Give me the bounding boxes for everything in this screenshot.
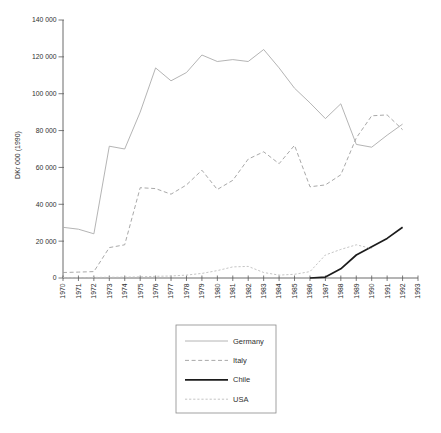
y-tick-label: 20 000 [36, 238, 57, 245]
x-tick-label: 1979 [198, 283, 205, 298]
x-tick-label: 1987 [322, 283, 329, 298]
x-tick-label: 1988 [337, 283, 344, 298]
x-tick-label: 1970 [59, 283, 66, 298]
x-tick-label: 1974 [121, 283, 128, 298]
x-tick-label: 1981 [229, 283, 236, 298]
series-line-italy [63, 115, 403, 273]
y-tick-label: 120 000 [32, 53, 57, 60]
axes-group: 020 00040 00060 00080 000100 000120 0001… [32, 16, 421, 298]
x-tick-label: 1989 [353, 283, 360, 298]
x-tick-label: 1991 [384, 283, 391, 298]
series-group [63, 50, 403, 279]
series-line-usa [63, 245, 372, 278]
legend-group: GermanyItalyChileUSA [176, 325, 276, 413]
x-tick-label: 1983 [260, 283, 267, 298]
series-line-germany [63, 50, 403, 234]
x-tick-label: 1973 [106, 283, 113, 298]
legend-label-italy: Italy [233, 356, 247, 365]
chart-figure: DKr 000 (1990) 020 00040 00060 00080 000… [0, 0, 441, 433]
x-tick-label: 1980 [214, 283, 221, 298]
y-tick-label: 100 000 [32, 90, 57, 97]
x-tick-label: 1992 [399, 283, 406, 298]
legend-label-germany: Germany [233, 337, 264, 346]
x-tick-label: 1993 [414, 283, 421, 298]
x-tick-label: 1975 [137, 283, 144, 298]
y-tick-label: 60 000 [36, 164, 57, 171]
x-tick-label: 1976 [152, 283, 159, 298]
x-tick-label: 1984 [275, 283, 282, 298]
x-tick-label: 1978 [183, 283, 190, 298]
y-tick-label: 0 [53, 274, 57, 281]
x-tick-label: 1985 [291, 283, 298, 298]
x-tick-label: 1972 [90, 283, 97, 298]
y-tick-label: 40 000 [36, 201, 57, 208]
x-tick-label: 1986 [306, 283, 313, 298]
series-line-chile [310, 227, 403, 278]
y-tick-label: 80 000 [36, 127, 57, 134]
x-tick-label: 1971 [75, 283, 82, 298]
legend-label-usa: USA [233, 395, 248, 404]
x-tick-label: 1982 [245, 283, 252, 298]
y-axis-title: DKr 000 (1990) [14, 131, 22, 179]
line-chart: DKr 000 (1990) 020 00040 00060 00080 000… [0, 0, 441, 433]
x-tick-label: 1990 [368, 283, 375, 298]
x-tick-label: 1977 [167, 283, 174, 298]
y-tick-label: 140 000 [32, 16, 57, 23]
legend-label-chile: Chile [233, 375, 250, 384]
